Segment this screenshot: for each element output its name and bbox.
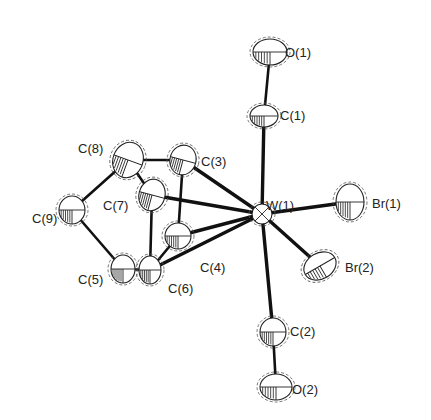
ortep-diagram: O(1) C(1) W(1) Br(1) Br(2) C(2) O(2) C(3… [0,0,431,420]
label-br1: Br(1) [372,196,401,211]
label-c8: C(8) [78,141,103,156]
bond-w1-c2 [262,214,273,332]
label-c3: C(3) [201,154,226,169]
atom-c4 [162,221,194,251]
label-c5: C(5) [78,272,103,287]
labels: O(1) C(1) W(1) Br(1) Br(2) C(2) O(2) C(3… [32,45,401,397]
label-c1: C(1) [280,108,305,123]
atom-c6 [136,254,164,286]
label-c7: C(7) [103,198,128,213]
atom-c5 [108,253,138,285]
label-o1: O(1) [285,45,311,60]
label-br2: Br(2) [345,260,374,275]
label-w1: W(1) [266,198,294,213]
atom-c9 [56,194,88,226]
atom-o2 [257,372,295,402]
atom-c1 [247,103,281,129]
label-o2: O(2) [292,382,318,397]
atom-c7 [132,173,172,216]
bond-c1-w1 [262,116,264,214]
label-c2: C(2) [290,324,315,339]
atoms [56,37,367,402]
label-c6: C(6) [168,281,193,296]
atom-o1 [250,37,290,67]
atom-br1 [333,182,367,222]
atom-c2 [257,316,289,348]
label-c9: C(9) [32,211,57,226]
label-c4: C(4) [200,260,225,275]
